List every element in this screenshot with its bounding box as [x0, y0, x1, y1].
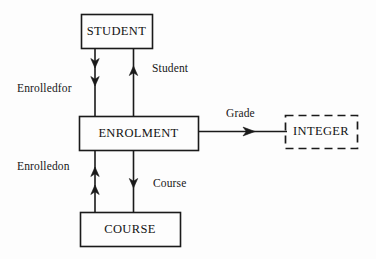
connector-student-to-enrolment[interactable]: [91, 48, 99, 116]
er-diagram-canvas: STUDENT ENROLMENT COURSE INTEGER Enrolle…: [0, 0, 376, 259]
connector-enrolment-to-course[interactable]: [129, 150, 137, 212]
connector-course-to-enrolment[interactable]: [91, 150, 99, 212]
entity-box-student[interactable]: [82, 15, 153, 49]
edge-label-course-role: Course: [153, 177, 186, 189]
edge-label-grade: Grade: [226, 107, 255, 119]
edge-label-enrolledfor: Enrolledfor: [17, 82, 72, 94]
edge-label-student-role: Student: [152, 62, 188, 74]
edge-label-enrolledon: Enrolledon: [17, 160, 70, 172]
connector-enrolment-to-student[interactable]: [129, 48, 137, 116]
diagram-vector-layer: [0, 0, 376, 259]
entity-box-course[interactable]: [81, 213, 181, 247]
entity-box-integer[interactable]: [286, 116, 358, 149]
entity-box-enrolment[interactable]: [80, 117, 199, 151]
connector-enrolment-to-integer[interactable]: [198, 127, 287, 136]
